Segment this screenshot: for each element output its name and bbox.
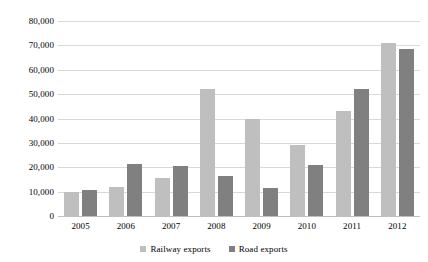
y-axis-tick-label: 80,000 [29, 16, 54, 26]
y-axis-tick-label: 20,000 [29, 162, 54, 172]
bar-group [239, 21, 284, 216]
y-axis-tick-label: 60,000 [29, 65, 54, 75]
x-axis-tick-label: 2007 [149, 218, 194, 234]
bar-road-2012[interactable] [399, 49, 414, 216]
bar-road-2005[interactable] [82, 190, 97, 216]
y-axis: 80,00070,00060,00050,00040,00030,00020,0… [0, 21, 54, 216]
bar-railway-2012[interactable] [381, 43, 396, 216]
bar-road-2011[interactable] [354, 89, 369, 216]
x-axis-tick-label: 2005 [58, 218, 103, 234]
legend-item-road[interactable]: Road exports [229, 244, 288, 254]
bar-group [149, 21, 194, 216]
y-axis-tick-label: 50,000 [29, 89, 54, 99]
bar-road-2006[interactable] [127, 164, 142, 216]
bar-railway-2007[interactable] [155, 178, 170, 216]
x-axis-tick-label: 2010 [284, 218, 329, 234]
bar-road-2007[interactable] [173, 166, 188, 216]
chart-legend: Railway exportsRoad exports [0, 244, 428, 254]
bar-group [103, 21, 148, 216]
x-axis-tick-label: 2008 [194, 218, 239, 234]
x-axis-tick-label: 2009 [239, 218, 284, 234]
bar-group [58, 21, 103, 216]
y-axis-tick-label: 70,000 [29, 40, 54, 50]
bar-railway-2008[interactable] [200, 89, 215, 216]
bar-road-2010[interactable] [308, 165, 323, 216]
legend-swatch-icon [140, 246, 146, 252]
legend-label: Road exports [239, 244, 288, 254]
y-axis-tick-label: 0 [49, 211, 54, 221]
bar-railway-2005[interactable] [64, 192, 79, 216]
x-axis-tick-label: 2011 [330, 218, 375, 234]
bar-group [330, 21, 375, 216]
axis-baseline [58, 216, 420, 217]
bar-chart: 80,00070,00060,00050,00040,00030,00020,0… [0, 0, 428, 262]
bar-railway-2011[interactable] [336, 111, 351, 216]
bar-road-2008[interactable] [218, 176, 233, 216]
bar-railway-2006[interactable] [109, 187, 124, 216]
y-axis-tick-label: 30,000 [29, 138, 54, 148]
bar-railway-2009[interactable] [245, 119, 260, 217]
x-axis: 20052006200720082009201020112012 [58, 218, 420, 234]
x-axis-tick-label: 2012 [375, 218, 420, 234]
bar-group [375, 21, 420, 216]
legend-swatch-icon [229, 246, 235, 252]
bar-railway-2010[interactable] [290, 145, 305, 216]
bar-groups [58, 21, 420, 216]
legend-item-railway[interactable]: Railway exports [140, 244, 210, 254]
plot-area [58, 21, 420, 216]
bar-group [194, 21, 239, 216]
bar-road-2009[interactable] [263, 188, 278, 216]
legend-label: Railway exports [150, 244, 210, 254]
y-axis-tick-label: 10,000 [29, 187, 54, 197]
x-axis-tick-label: 2006 [103, 218, 148, 234]
bar-group [284, 21, 329, 216]
y-axis-tick-label: 40,000 [29, 114, 54, 124]
